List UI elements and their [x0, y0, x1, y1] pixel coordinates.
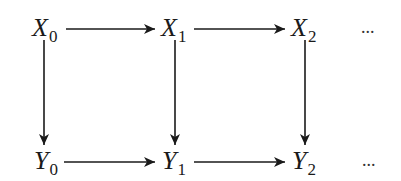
node-y0-sub: 0 — [49, 160, 58, 179]
continuation-top: ... — [361, 18, 375, 36]
node-y2: Y2 — [292, 148, 316, 174]
node-x2-base: X — [291, 13, 307, 42]
arrows-layer — [0, 0, 401, 181]
node-x0-sub: 0 — [49, 27, 58, 46]
node-x1: X1 — [161, 15, 186, 41]
node-y1-sub: 1 — [177, 160, 186, 179]
node-x1-sub: 1 — [178, 27, 187, 46]
node-x0-base: X — [32, 13, 48, 42]
commutative-diagram: X0 X1 X2 ... Y0 Y1 Y2 ... — [0, 0, 401, 181]
node-x2-sub: 2 — [308, 27, 317, 46]
continuation-bottom: ... — [362, 151, 376, 169]
node-x2: X2 — [291, 15, 316, 41]
node-y2-base: Y — [292, 146, 306, 175]
node-y1: Y1 — [162, 148, 186, 174]
node-y0-base: Y — [34, 146, 48, 175]
node-y2-sub: 2 — [307, 160, 316, 179]
node-x1-base: X — [161, 13, 177, 42]
node-y0: Y0 — [34, 148, 58, 174]
node-y1-base: Y — [162, 146, 176, 175]
node-x0: X0 — [32, 15, 57, 41]
